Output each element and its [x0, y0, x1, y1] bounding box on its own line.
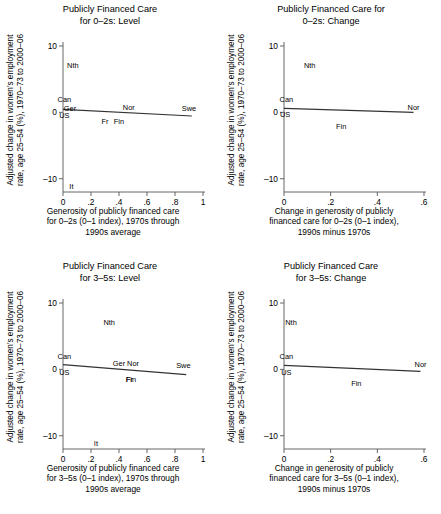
x-tick-label: .6 [421, 455, 428, 464]
y-axis-label: Adjusted change in women's employment ra… [227, 287, 247, 447]
panel-bottom-right: Publicly Financed Care for 3–5s: ChangeA… [221, 257, 441, 514]
x-tick-label: 0 [282, 455, 287, 464]
panel-title: Publicly Financed Care for 3–5s: Level [0, 261, 220, 284]
x-tick-label: 0 [61, 455, 66, 464]
y-axis-label: Adjusted change in women's employment ra… [6, 287, 26, 447]
data-point-label: Fin [351, 380, 361, 388]
y-tick-label: –10 [29, 174, 57, 183]
data-point-label: Fin [114, 118, 124, 126]
data-point-label: Can [58, 96, 72, 104]
data-point-label: Nor [415, 361, 427, 369]
y-tick-label: 0 [250, 108, 278, 117]
regression-fit-line [284, 365, 421, 371]
data-point-label: US [281, 369, 291, 377]
x-tick-label: .6 [421, 198, 428, 207]
data-point-label: It [69, 183, 73, 191]
data-point-label: Swe [176, 362, 190, 370]
y-tick-label: 10 [250, 299, 278, 308]
panel-top-right: Publicly Financed Care for 0–2s: ChangeA… [221, 0, 441, 257]
figure-panel-grid: Publicly Financed Care for 0–2s: LevelAd… [0, 0, 441, 514]
x-tick-label: 1 [201, 198, 206, 207]
data-point-label: US [59, 369, 69, 377]
y-tick-label: 0 [250, 365, 278, 374]
data-point-label: Can [280, 353, 294, 361]
y-tick-label: –10 [250, 174, 278, 183]
x-tick-label: 0 [282, 198, 287, 207]
y-tick-label: 0 [29, 108, 57, 117]
y-axis-label: Adjusted change in women's employment ra… [6, 30, 26, 190]
regression-fit-line [284, 108, 414, 112]
x-tick-label: .6 [144, 198, 151, 207]
y-tick-label: –10 [250, 431, 278, 440]
data-point-label: Nth [304, 62, 316, 70]
panel-title: Publicly Financed Care for 0–2s: Change [221, 4, 441, 27]
x-tick-label: .6 [144, 455, 151, 464]
panel-top-left: Publicly Financed Care for 0–2s: LevelAd… [0, 0, 220, 257]
data-point-label: Nor [127, 360, 139, 368]
x-tick-label: .4 [374, 198, 381, 207]
x-axis-label: Generosity of publicly financed care for… [8, 463, 218, 494]
y-tick-label: 10 [250, 42, 278, 51]
y-axis-label: Adjusted change in women's employment ra… [227, 30, 247, 190]
x-tick-label: .2 [88, 455, 95, 464]
x-axis-label: Change in generosity of publicly finance… [229, 206, 439, 237]
data-point-label: Fin [126, 376, 136, 384]
data-point-label: Can [58, 353, 72, 361]
data-point-label: Can [280, 96, 294, 104]
data-point-label: US [280, 111, 290, 119]
data-point-label: It [94, 440, 98, 448]
x-tick-label: .2 [327, 198, 334, 207]
y-tick-label: 10 [29, 42, 57, 51]
x-tick-label: 1 [201, 455, 206, 464]
data-point-label: Nth [103, 319, 115, 327]
data-point-label: Nth [285, 319, 297, 327]
x-tick-label: .2 [88, 198, 95, 207]
panel-title: Publicly Financed Care for 3–5s: Change [221, 261, 441, 284]
x-tick-label: .2 [327, 455, 334, 464]
data-point-label: Swe [182, 105, 196, 113]
x-tick-label: .8 [172, 455, 179, 464]
data-point-label: Ger [113, 360, 125, 368]
data-point-label: Nor [123, 104, 135, 112]
x-tick-label: .4 [116, 198, 123, 207]
data-point-label: Nth [67, 62, 79, 70]
data-point-label: Fin [336, 123, 346, 131]
y-tick-label: –10 [29, 431, 57, 440]
x-axis-label: Change in generosity of publicly finance… [229, 463, 439, 494]
x-axis-label: Generosity of publicly financed care for… [8, 206, 218, 237]
x-tick-label: 0 [61, 198, 66, 207]
y-tick-label: 0 [29, 365, 57, 374]
panel-title: Publicly Financed Care for 0–2s: Level [0, 4, 220, 27]
panel-bottom-left: Publicly Financed Care for 3–5s: LevelAd… [0, 257, 220, 514]
x-tick-label: .4 [116, 455, 123, 464]
data-point-label: Fr [102, 118, 109, 126]
x-tick-label: .4 [374, 455, 381, 464]
y-tick-label: 10 [29, 299, 57, 308]
data-point-label: US [59, 112, 69, 120]
x-tick-label: .8 [172, 198, 179, 207]
data-point-label: Nor [408, 104, 420, 112]
